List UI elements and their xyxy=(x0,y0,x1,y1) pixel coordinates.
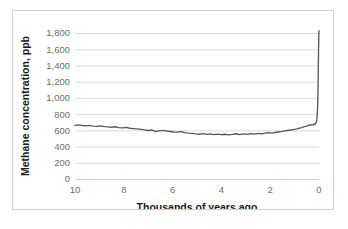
x-tick-label-10: 10 xyxy=(70,184,81,195)
y-tick-label-600: 600 xyxy=(54,125,70,136)
y-axis-tick-labels: 02004006008001,0001,2001,4001,6001,800 xyxy=(46,27,70,184)
y-tick-label-1400: 1,400 xyxy=(46,60,70,71)
gridlines-group xyxy=(75,34,319,180)
y-tick-label-200: 200 xyxy=(54,157,70,168)
x-tick-label-8: 8 xyxy=(121,184,126,195)
y-tick-label-800: 800 xyxy=(54,109,70,120)
x-axis-tick-labels: 1086420 xyxy=(70,184,322,195)
x-axis-title: Thousands of years ago xyxy=(137,201,258,209)
y-tick-label-1800: 1,800 xyxy=(46,27,70,38)
x-tick-label-2: 2 xyxy=(268,184,273,195)
methane-concentration-line-chart: 02004006008001,0001,2001,4001,6001,800 1… xyxy=(13,11,333,209)
chart-container: 02004006008001,0001,2001,4001,6001,800 1… xyxy=(12,10,334,210)
y-tick-label-1200: 1,200 xyxy=(46,76,70,87)
x-tick-label-6: 6 xyxy=(170,184,175,195)
methane-series-line xyxy=(75,31,319,135)
x-tick-label-0: 0 xyxy=(316,184,321,195)
y-tick-label-1600: 1,600 xyxy=(46,44,70,55)
y-tick-label-0: 0 xyxy=(65,173,70,184)
y-tick-label-1000: 1,000 xyxy=(46,92,70,103)
x-tick-label-4: 4 xyxy=(219,184,224,195)
y-tick-label-400: 400 xyxy=(54,141,70,152)
y-axis-title: Methane concentration, ppb xyxy=(19,36,31,176)
